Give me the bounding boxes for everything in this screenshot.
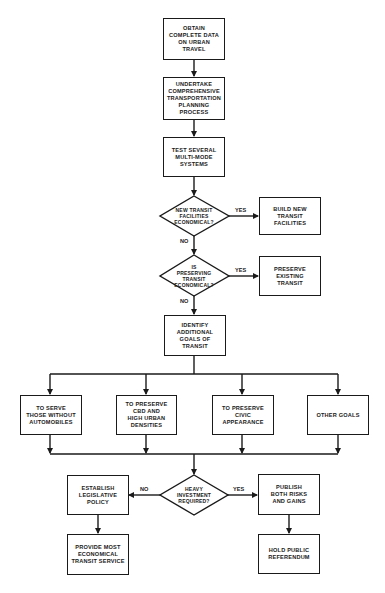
publish-risks-box: PUBLISH BOTH RISKS AND GAINS [258,474,320,515]
undertake-planning-box: UNDERTAKE COMPREHENSIVE TRANSPORTATION P… [163,77,225,120]
decision1-yes-label: YES [235,207,246,214]
build-new-transit-box: BUILD NEW TRANSIT FACILITIES [259,197,321,235]
identify-goals-box: IDENTIFY ADDITIONAL GOALS OF TRANSIT [164,315,226,356]
goal-preserve-cbd-box: TO PRESERVE CBD AND HIGH URBAN DENSITIES [116,395,177,435]
hold-referendum-box: HOLD PUBLIC REFERENDUM [258,534,320,574]
flowchart-canvas: OBTAIN COMPLETE DATA ON URBAN TRAVEL UND… [0,0,385,593]
preserve-existing-box: PRESERVE EXISTING TRANSIT [259,256,321,296]
goal-other-box: OTHER GOALS [307,395,369,435]
decision1-question: NEW TRANSIT FACILITIES ECONOMICAL? [166,203,222,229]
obtain-data-box: OBTAIN COMPLETE DATA ON URBAN TRAVEL [163,18,225,60]
test-systems-box: TEST SEVERAL MULTI-MODE SYSTEMS [163,137,225,177]
decision3-yes-label: YES [233,486,244,493]
decision2-yes-label: YES [235,267,246,274]
decision1-no-label: NO [180,238,188,245]
decision3-no-label: NO [140,486,148,493]
decision3-question: HEAVY INVESTMENT REQUIRED? [166,484,222,506]
decision2-no-label: NO [180,298,188,305]
decision2-question: IS PRESERVING TRANSIT ECONOMICAL? [166,260,222,292]
goal-serve-box: TO SERVE THOSE WITHOUT AUTOMOBILES [20,395,82,435]
establish-policy-box: ESTABLISH LEGISLATIVE POLICY [67,475,129,515]
goal-civic-box: TO PRESERVE CIVIC APPEARANCE [212,395,274,435]
provide-service-box: PROVIDE MOST ECONOMICAL TRANSIT SERVICE [67,534,129,575]
